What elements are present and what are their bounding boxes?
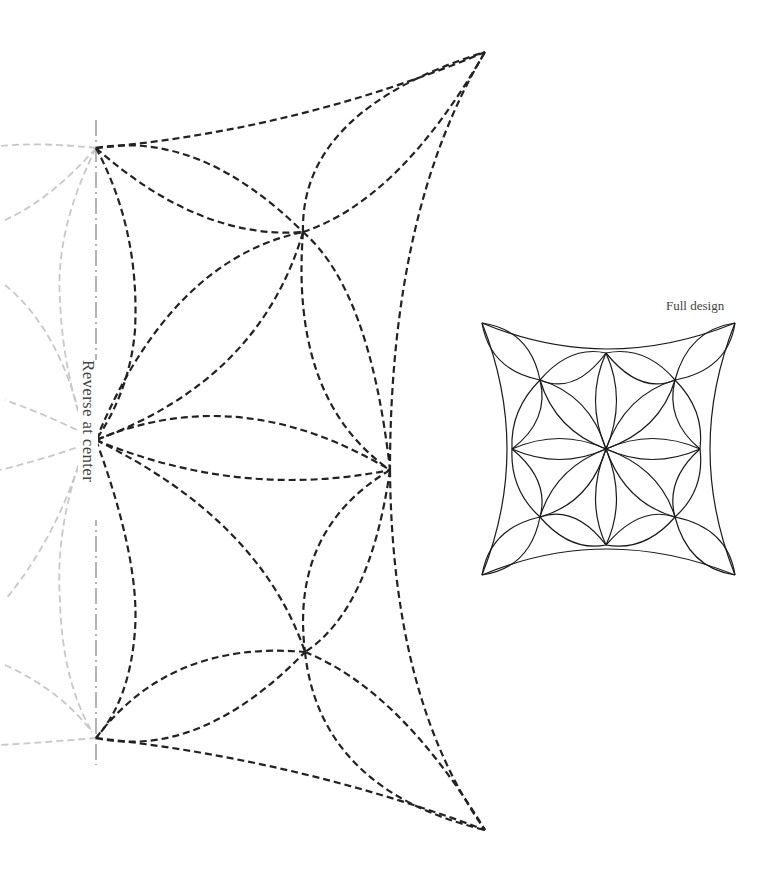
reverse-at-center-label: Reverse at center <box>78 360 98 520</box>
half-pattern-dashed <box>96 52 485 830</box>
full-design-label: Full design <box>666 298 724 314</box>
quilting-pattern-canvas: Reverse at center Full design <box>0 0 778 882</box>
pattern-drawing <box>0 0 778 882</box>
full-design-preview <box>482 323 735 575</box>
